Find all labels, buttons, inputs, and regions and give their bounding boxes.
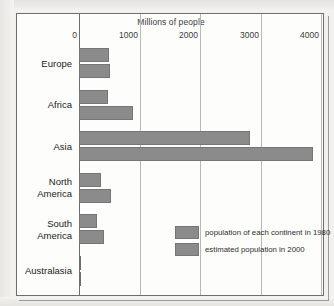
chart-screenshot: Millions of people 01000200030004000 Eur… [0, 0, 334, 306]
category-label-line: Europe [41, 58, 72, 70]
bar-africa-series2 [79, 106, 133, 120]
legend-entry: estimated population in 2000 [175, 242, 325, 257]
category-label-south-america: SouthAmerica [17, 209, 75, 251]
category-label-line: South [47, 218, 72, 230]
scan-edge-top [0, 0, 334, 11]
bar-south-america-series1 [79, 214, 97, 228]
legend-label: population of each continent in 1980 [205, 228, 330, 237]
category-label-line: Australasia [25, 265, 72, 277]
category-label-line: Africa [48, 99, 72, 111]
bar-africa-series1 [79, 90, 108, 104]
bar-group [79, 126, 325, 168]
bar-south-america-series2 [79, 230, 104, 244]
chart-row: Asia [17, 126, 325, 168]
x-tick-label-0: 0 [72, 30, 79, 40]
category-label-line: North [49, 176, 72, 188]
legend-entry: population of each continent in 1980 [175, 225, 325, 240]
legend-swatch [175, 226, 199, 239]
bar-group [79, 85, 325, 127]
category-label-north-america: NorthAmerica [17, 168, 75, 210]
category-label-line: Asia [54, 141, 72, 153]
legend-swatch [175, 243, 199, 256]
legend-label: estimated population in 2000 [205, 245, 305, 254]
category-label-line: America [37, 230, 72, 242]
category-label-europe: Europe [17, 43, 75, 85]
legend: population of each continent in 1980esti… [175, 225, 325, 259]
category-label-australasia: Australasia [17, 251, 75, 293]
bar-europe-series2 [79, 64, 110, 78]
bar-group [79, 168, 325, 210]
chart-row: NorthAmerica [17, 168, 325, 210]
bar-europe-series1 [79, 48, 109, 62]
chart-row: Europe [17, 43, 325, 85]
chart-frame: Millions of people 01000200030004000 Eur… [16, 13, 324, 296]
bar-australasia-series2 [79, 272, 81, 286]
bar-asia-series1 [79, 131, 250, 145]
bar-group [79, 43, 325, 85]
category-label-asia: Asia [17, 126, 75, 168]
bar-north-america-series1 [79, 173, 101, 187]
bar-australasia-series1 [79, 256, 81, 270]
chart-row: Africa [17, 85, 325, 127]
category-label-line: America [37, 188, 72, 200]
bar-north-america-series2 [79, 189, 111, 203]
bar-asia-series2 [79, 147, 313, 161]
scan-edge-left [0, 0, 14, 306]
category-label-africa: Africa [17, 85, 75, 127]
